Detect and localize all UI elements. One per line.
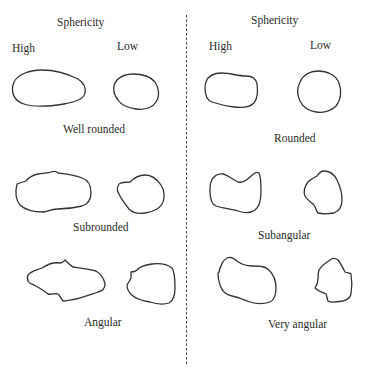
grain-subrounded-low-sphericity [118,175,165,213]
grain-very-angular-high-sphericity [218,257,276,303]
right-low-sphericity-label: Low [310,40,331,52]
class-label-rounded: Rounded [274,133,316,145]
grain-angular-high-sphericity [27,260,105,301]
grain-well-rounded-low-sphericity [114,74,159,109]
class-label-angular: Angular [84,317,122,329]
grain-rounded-high-sphericity [205,73,257,107]
right-high-sphericity-label: High [209,41,232,53]
class-label-subrounded: Subrounded [73,222,129,234]
grain-subrounded-high-sphericity [16,171,91,212]
grain-rounded-low-sphericity [298,71,341,112]
left-high-sphericity-label: High [12,43,35,55]
left-sphericity-header: Sphericity [57,17,104,29]
grain-subangular-high-sphericity [210,172,261,212]
grain-well-rounded-high-sphericity [12,70,85,106]
class-label-very-angular: Very angular [268,319,327,331]
class-label-well-rounded: Well rounded [63,124,125,136]
right-sphericity-header: Sphericity [251,15,298,27]
left-low-sphericity-label: Low [117,41,138,53]
grain-subangular-low-sphericity [304,171,342,214]
grain-angular-low-sphericity [127,264,175,304]
grain-very-angular-low-sphericity [315,259,352,303]
class-label-subangular: Subangular [258,230,310,242]
